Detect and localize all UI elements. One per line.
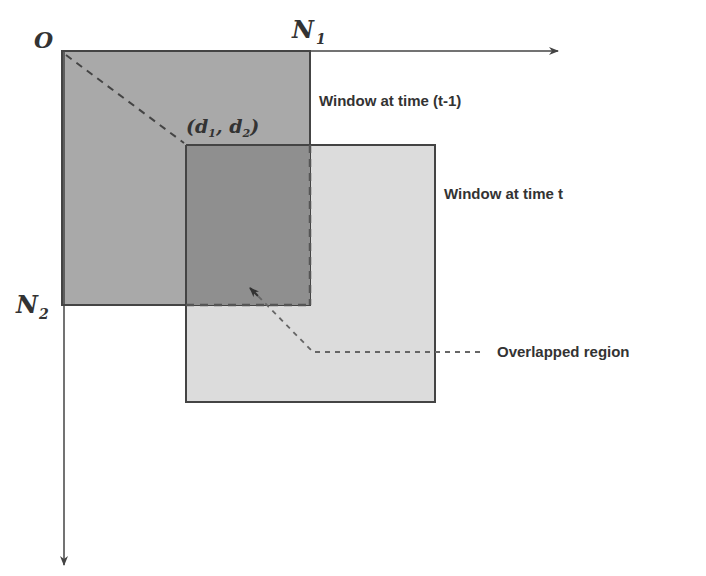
x-axis-label: N1: [291, 15, 326, 47]
window-t-minus-1-label: Window at time (t-1): [319, 92, 461, 109]
x-axis-label-main: N: [291, 15, 315, 44]
diagram-canvas: O N1 N2 (d1, d2) Window at time (t-1) Wi…: [0, 0, 706, 576]
origin-label: O: [34, 27, 53, 53]
overlapped-region-label: Overlapped region: [497, 343, 630, 360]
window-t-label: Window at time t: [444, 185, 563, 202]
y-axis-label-subscript: 2: [38, 306, 49, 322]
y-axis-label-main: N: [15, 290, 39, 319]
overlapped-region: [186, 145, 310, 305]
y-axis-label: N2: [15, 290, 49, 322]
x-axis-label-subscript: 1: [316, 31, 326, 47]
